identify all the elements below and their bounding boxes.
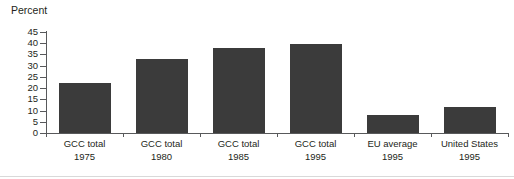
- y-axis-tick: [40, 111, 46, 112]
- x-axis-category-labels: GCC total1975GCC total1980GCC total1985G…: [46, 137, 508, 171]
- x-axis-category-label: GCC total1975: [46, 137, 123, 171]
- bar: [59, 83, 111, 134]
- category-year: 1995: [277, 150, 354, 163]
- category-name: EU average: [354, 137, 431, 150]
- category-name: GCC total: [46, 137, 123, 150]
- y-axis-tick: [40, 54, 46, 55]
- y-axis-tick-label: 0: [4, 128, 38, 138]
- bar: [213, 48, 265, 133]
- y-axis-tick-label: 45: [4, 27, 38, 37]
- y-axis-tick-labels: 051015202530354045: [0, 0, 38, 179]
- bar-chart-figure: Percent 051015202530354045 GCC total1975…: [0, 0, 514, 179]
- y-axis-tick: [40, 122, 46, 123]
- category-year: 1995: [431, 150, 508, 163]
- y-axis-tick-label: 15: [4, 94, 38, 104]
- bar: [367, 115, 419, 133]
- x-axis-category-label: EU average1995: [354, 137, 431, 171]
- y-axis-tick-label: 20: [4, 83, 38, 93]
- y-axis-tick: [40, 43, 46, 44]
- category-year: 1985: [200, 150, 277, 163]
- bar: [136, 59, 188, 133]
- y-axis-tick-label: 25: [4, 72, 38, 82]
- category-name: GCC total: [200, 137, 277, 150]
- y-axis-tick: [40, 32, 46, 33]
- y-axis-tick: [40, 99, 46, 100]
- y-axis-tick-label: 5: [4, 117, 38, 127]
- y-axis-tick: [40, 66, 46, 67]
- x-axis-category-label: GCC total1995: [277, 137, 354, 171]
- x-axis-category-label: United States1995: [431, 137, 508, 171]
- y-axis-tick-label: 30: [4, 61, 38, 71]
- category-name: GCC total: [123, 137, 200, 150]
- category-year: 1975: [46, 150, 123, 163]
- y-axis-tick-label: 10: [4, 106, 38, 116]
- bar: [444, 107, 496, 133]
- x-axis-category-label: GCC total1985: [200, 137, 277, 171]
- category-name: GCC total: [277, 137, 354, 150]
- bar: [290, 44, 342, 133]
- y-axis-tick-label: 40: [4, 38, 38, 48]
- x-axis-tick: [200, 133, 201, 137]
- x-axis-tick: [46, 133, 47, 137]
- category-year: 1980: [123, 150, 200, 163]
- x-axis-tick: [508, 133, 509, 137]
- bottom-divider: [0, 176, 514, 177]
- x-axis-tick: [354, 133, 355, 137]
- category-year: 1995: [354, 150, 431, 163]
- category-name: United States: [431, 137, 508, 150]
- x-axis-tick: [277, 133, 278, 137]
- y-axis-tick-label: 35: [4, 49, 38, 59]
- x-axis-tick: [123, 133, 124, 137]
- bars-layer: [46, 32, 508, 133]
- y-axis-tick: [40, 88, 46, 89]
- y-axis-tick: [40, 77, 46, 78]
- x-axis-category-label: GCC total1980: [123, 137, 200, 171]
- x-axis-tick: [431, 133, 432, 137]
